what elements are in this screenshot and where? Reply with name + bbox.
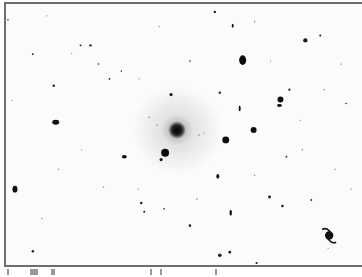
star xyxy=(138,189,139,190)
galaxy xyxy=(277,104,282,107)
star xyxy=(148,117,149,118)
galaxy xyxy=(277,97,283,103)
star xyxy=(46,15,47,16)
star xyxy=(71,53,72,54)
star xyxy=(345,103,347,105)
central-galaxy-core xyxy=(168,121,186,139)
galaxy xyxy=(239,105,241,111)
star xyxy=(98,63,100,65)
star xyxy=(139,78,140,79)
star xyxy=(32,250,34,252)
star xyxy=(218,253,222,257)
central-galaxy-halo xyxy=(132,86,221,175)
star xyxy=(281,205,284,208)
star xyxy=(189,224,192,227)
star xyxy=(219,91,221,93)
caption-fragment xyxy=(215,269,217,275)
star xyxy=(160,158,163,161)
star xyxy=(157,125,158,126)
star xyxy=(203,132,204,133)
galaxy xyxy=(161,149,169,157)
galaxy-cluster-image xyxy=(6,4,362,265)
star xyxy=(254,21,255,22)
spiral-galaxy xyxy=(322,229,336,243)
caption-fragment xyxy=(150,269,152,275)
star xyxy=(286,156,288,158)
star xyxy=(302,149,303,150)
spiral-galaxy-core xyxy=(325,231,333,239)
star xyxy=(89,44,91,46)
star xyxy=(121,70,123,72)
caption-fragment xyxy=(7,269,9,275)
star xyxy=(328,248,329,249)
star xyxy=(300,120,301,121)
star xyxy=(214,11,216,13)
star xyxy=(53,85,55,87)
star xyxy=(169,93,172,96)
star xyxy=(268,196,271,199)
star xyxy=(140,202,142,204)
galaxy xyxy=(222,136,229,143)
star xyxy=(80,44,82,46)
galaxy xyxy=(232,24,234,28)
star xyxy=(143,211,145,213)
star xyxy=(228,251,231,254)
star xyxy=(303,38,307,42)
star xyxy=(32,53,34,55)
star xyxy=(310,199,312,201)
star xyxy=(41,218,42,219)
star xyxy=(109,78,111,80)
galaxy xyxy=(216,174,219,179)
star xyxy=(319,35,321,37)
star xyxy=(196,198,197,199)
star xyxy=(288,89,290,91)
star xyxy=(255,262,257,264)
caption-fragment xyxy=(160,269,162,275)
galaxy xyxy=(251,127,257,133)
astronomical-image-frame xyxy=(4,2,362,267)
galaxy xyxy=(12,186,17,193)
star xyxy=(189,60,191,62)
caption-fragment xyxy=(30,269,38,275)
star xyxy=(58,169,59,170)
star xyxy=(7,19,9,21)
star xyxy=(335,169,336,170)
star xyxy=(270,61,271,62)
galaxy xyxy=(52,120,59,125)
cropped-caption-strip xyxy=(0,268,362,277)
star xyxy=(159,26,160,27)
star xyxy=(81,149,82,150)
caption-fragment xyxy=(51,269,55,275)
galaxy xyxy=(122,155,127,159)
galaxy xyxy=(239,55,246,65)
star xyxy=(103,187,104,188)
star xyxy=(163,208,165,210)
star xyxy=(350,189,351,190)
star xyxy=(340,63,341,64)
star xyxy=(198,134,199,135)
star xyxy=(11,100,12,101)
star xyxy=(254,175,255,176)
galaxy xyxy=(230,210,232,216)
star xyxy=(324,89,325,90)
